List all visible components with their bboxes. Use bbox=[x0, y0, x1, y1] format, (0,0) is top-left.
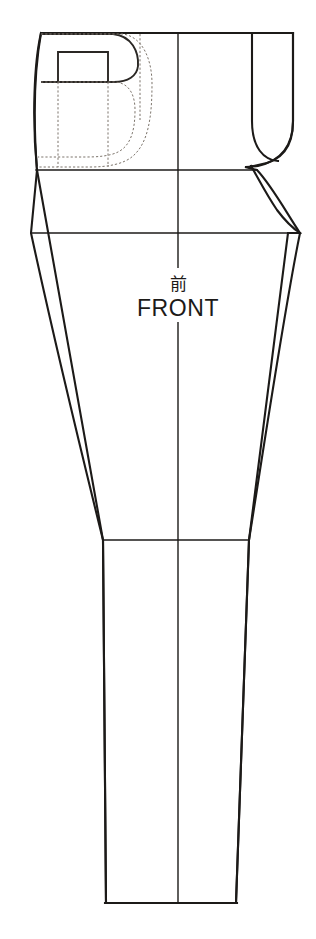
pattern-sheet: 前 FRONT bbox=[0, 0, 316, 939]
piece-label-en: FRONT bbox=[137, 295, 219, 321]
trouser-front-pattern-drawing: 前 FRONT bbox=[0, 0, 316, 939]
crotch-fly-curve bbox=[252, 33, 278, 161]
pocket-opening-outline bbox=[58, 52, 108, 82]
side-seam-left bbox=[31, 33, 106, 903]
pocket-bag-outline bbox=[37, 34, 152, 167]
pocket-facing-curve bbox=[41, 34, 138, 82]
inseam-right bbox=[236, 233, 300, 903]
piece-label-jp: 前 bbox=[170, 274, 187, 294]
pocket-bag-inner-outline bbox=[38, 82, 135, 157]
